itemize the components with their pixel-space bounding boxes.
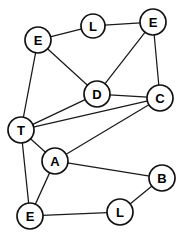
- graph-edge: [50, 29, 82, 37]
- graph-edge: [22, 142, 28, 203]
- graph-node-label: B: [157, 171, 166, 186]
- graph-edge: [104, 23, 140, 25]
- graph-node-label: A: [50, 154, 60, 169]
- graph-diagram: ELEDCTABEL: [0, 0, 183, 236]
- graph-node[interactable]: T: [8, 117, 34, 143]
- graph-node[interactable]: A: [42, 148, 68, 174]
- graph-edge: [23, 52, 35, 117]
- graph-edge: [130, 186, 153, 204]
- graph-edge: [109, 95, 147, 97]
- graph-node-label: E: [26, 209, 35, 224]
- graph-node[interactable]: D: [84, 81, 110, 107]
- graph-edge: [42, 213, 107, 216]
- graph-edge: [47, 48, 88, 85]
- graph-svg-canvas: ELEDCTABEL: [0, 0, 183, 236]
- graph-edge: [67, 163, 149, 176]
- node-layer: ELEDCTABEL: [8, 9, 175, 229]
- graph-node-label: T: [17, 123, 25, 138]
- graph-node-label: L: [89, 19, 97, 34]
- graph-edge: [35, 172, 50, 204]
- graph-node[interactable]: E: [17, 203, 43, 229]
- graph-node-label: D: [92, 87, 101, 102]
- graph-edge: [66, 104, 150, 154]
- graph-node-label: L: [116, 205, 124, 220]
- graph-node[interactable]: E: [140, 9, 166, 35]
- graph-node[interactable]: C: [147, 85, 173, 111]
- graph-node-label: E: [34, 33, 43, 48]
- graph-node-label: E: [149, 15, 158, 30]
- graph-edge: [30, 138, 46, 152]
- graph-edge: [105, 32, 146, 84]
- graph-node[interactable]: E: [25, 27, 51, 53]
- graph-node[interactable]: L: [107, 199, 133, 225]
- graph-node[interactable]: B: [149, 165, 175, 191]
- graph-node[interactable]: L: [81, 14, 105, 38]
- graph-node-label: C: [155, 91, 165, 106]
- graph-edge: [154, 34, 159, 85]
